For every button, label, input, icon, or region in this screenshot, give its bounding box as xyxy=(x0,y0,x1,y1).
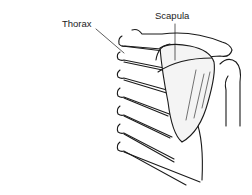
scapula-label: Scapula xyxy=(155,10,189,21)
thorax-label: Thorax xyxy=(62,18,92,29)
thorax-leader-line xyxy=(96,29,124,53)
scapula xyxy=(160,44,214,142)
humerus xyxy=(220,59,241,126)
thorax-scapula-illustration xyxy=(0,0,252,195)
